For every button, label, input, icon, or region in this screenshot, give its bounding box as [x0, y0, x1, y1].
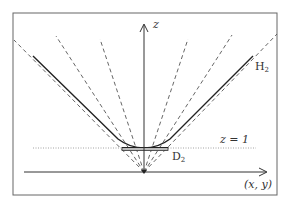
- projection-rays: [14, 34, 277, 172]
- plane-label: z = 1: [219, 133, 249, 146]
- hyperboloid-diagram: z H2 z = 1 D2 (x, y): [0, 0, 294, 205]
- hyperboloid-label: H2: [255, 60, 269, 74]
- disk-d2: [122, 148, 168, 151]
- z-axis-label: z: [152, 18, 159, 31]
- xy-axis-label: (x, y): [244, 178, 272, 191]
- disk-label: D2: [172, 150, 185, 164]
- figure-frame: [13, 13, 277, 195]
